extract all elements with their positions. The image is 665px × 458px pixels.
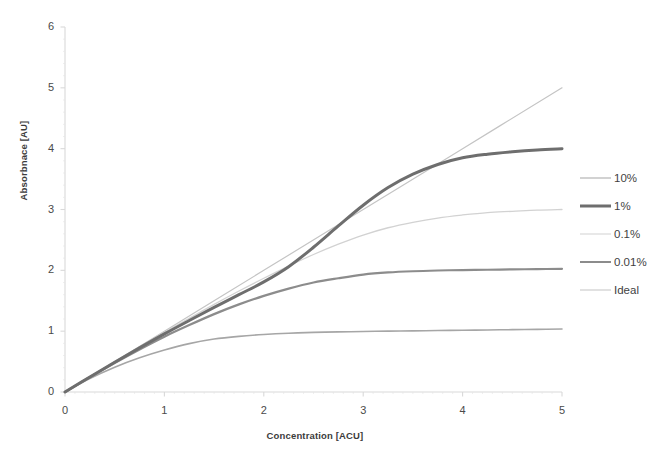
legend-label: 0.1% bbox=[614, 228, 640, 240]
chart-legend: 10%1%0.1%0.01%Ideal bbox=[580, 164, 647, 304]
y-tick-label: 6 bbox=[32, 20, 54, 32]
x-axis-title: Concentration [ACU] bbox=[215, 430, 415, 441]
y-tick-label: 3 bbox=[32, 203, 54, 215]
legend-swatch-icon bbox=[580, 257, 611, 267]
legend-label: 0.01% bbox=[614, 256, 647, 268]
y-axis-title: Absorbnace [AU] bbox=[18, 91, 29, 231]
legend-item-10-[interactable]: 10% bbox=[580, 164, 647, 192]
series-line-0-1- bbox=[65, 210, 562, 393]
legend-item-ideal[interactable]: Ideal bbox=[580, 276, 647, 304]
x-tick-label: 0 bbox=[54, 404, 76, 416]
series-layer bbox=[65, 88, 562, 392]
legend-swatch-icon bbox=[580, 173, 611, 183]
series-line-10- bbox=[65, 329, 562, 392]
legend-swatch-icon bbox=[580, 285, 611, 295]
legend-swatch-icon bbox=[580, 229, 611, 239]
legend-item-0-01-[interactable]: 0.01% bbox=[580, 248, 647, 276]
legend-item-1-[interactable]: 1% bbox=[580, 192, 647, 220]
legend-label: Ideal bbox=[614, 284, 639, 296]
plot-area bbox=[0, 0, 665, 458]
y-tick-label: 2 bbox=[32, 263, 54, 275]
x-tick-label: 3 bbox=[352, 404, 374, 416]
x-tick-label: 2 bbox=[253, 404, 275, 416]
legend-swatch-icon bbox=[580, 201, 611, 211]
x-tick-label: 1 bbox=[153, 404, 175, 416]
legend-label: 1% bbox=[614, 200, 631, 212]
y-tick-label: 5 bbox=[32, 81, 54, 93]
axes-layer bbox=[61, 27, 563, 397]
x-tick-label: 5 bbox=[551, 404, 573, 416]
x-tick-label: 4 bbox=[452, 404, 474, 416]
legend-label: 10% bbox=[614, 172, 637, 184]
y-tick-label: 4 bbox=[32, 142, 54, 154]
y-tick-label: 1 bbox=[32, 324, 54, 336]
chart-container: 0123456 012345 Absorbnace [AU] Concentra… bbox=[0, 0, 665, 458]
legend-item-0-1-[interactable]: 0.1% bbox=[580, 220, 647, 248]
y-tick-label: 0 bbox=[32, 385, 54, 397]
